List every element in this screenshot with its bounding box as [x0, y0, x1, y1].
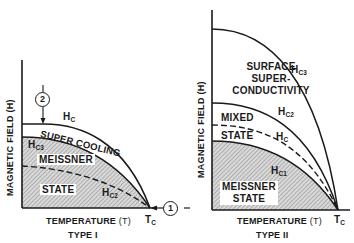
type1-title: TYPE I — [68, 230, 98, 241]
type2-hc3-label: HC3 — [291, 64, 307, 78]
type1-marker-2: 2 — [35, 92, 50, 107]
type2-hc2-label: HC2 — [278, 106, 294, 120]
type2-title: TYPE II — [256, 230, 288, 241]
type2-mixed-label: MIXED — [221, 112, 254, 123]
type2-y-axis-label: MAGNETIC FIELD (H) — [196, 81, 206, 178]
type1-hc2-label: HC2 — [102, 187, 118, 201]
type1-x-axis-label: TEMPERATURE (T) — [46, 216, 131, 227]
type2-x-axis-label: TEMPERATURE (T) — [237, 216, 322, 227]
type1-meissner-label: MEISSNER — [37, 154, 95, 165]
type1-hc3-label: HC3 — [28, 139, 44, 153]
type2-hc-label: HC — [276, 131, 288, 145]
type2-state-label: STATE — [221, 130, 253, 141]
type1-marker-1: 1 — [163, 201, 178, 216]
type2-hc1-label: HC1 — [271, 165, 287, 179]
type1-hc-label: HC — [63, 111, 75, 125]
type1-y-axis-label: MAGNETIC FIELD (H) — [5, 99, 15, 196]
type1-tc-label: TC — [145, 214, 156, 228]
type2-meissner-label: MEISSNER STATE — [220, 181, 278, 205]
type2-tc-label: TC — [334, 214, 345, 228]
type1-state-label: STATE — [40, 184, 76, 195]
